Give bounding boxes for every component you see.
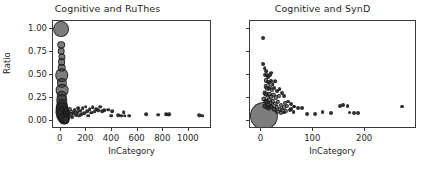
y-tick-mark bbox=[49, 28, 52, 29]
data-point bbox=[200, 114, 204, 118]
data-point bbox=[145, 112, 149, 116]
x-tick-label: 600 bbox=[129, 133, 145, 143]
data-point bbox=[356, 111, 360, 115]
x-tick-label: 800 bbox=[154, 133, 170, 143]
data-point bbox=[282, 94, 286, 98]
data-point bbox=[261, 36, 265, 40]
y-tick-label: 0.75 bbox=[28, 46, 47, 56]
data-point bbox=[123, 114, 127, 118]
x-tick-label: 400 bbox=[103, 133, 119, 143]
y-tick-mark bbox=[246, 74, 249, 75]
data-point bbox=[305, 112, 309, 116]
data-point bbox=[401, 105, 405, 109]
data-point bbox=[86, 114, 90, 118]
x-tick-mark bbox=[111, 128, 112, 131]
data-point bbox=[292, 105, 296, 109]
x-tick-label: 100 bbox=[304, 133, 320, 143]
panel-cognitive-synd: Cognitive and SynD InCategory 0100200 bbox=[215, 0, 430, 173]
x-tick-mark bbox=[137, 128, 138, 131]
y-tick-mark bbox=[49, 97, 52, 98]
y-tick-mark bbox=[246, 97, 249, 98]
y-tick-label: 0.25 bbox=[28, 92, 47, 102]
y-tick-mark bbox=[246, 28, 249, 29]
data-point bbox=[106, 108, 110, 112]
data-point bbox=[329, 111, 333, 115]
data-point bbox=[157, 113, 161, 117]
y-tick-mark bbox=[246, 120, 249, 121]
y-tick-mark bbox=[49, 120, 52, 121]
plot-area-left bbox=[52, 20, 211, 128]
x-tick-label: 1000 bbox=[177, 133, 199, 143]
data-point bbox=[292, 110, 296, 114]
data-point bbox=[98, 105, 102, 109]
x-tick-label: 200 bbox=[77, 133, 93, 143]
panel-right-title: Cognitive and SynD bbox=[215, 3, 430, 14]
x-tick-mark bbox=[260, 128, 261, 131]
data-point bbox=[269, 71, 273, 75]
y-tick-label: 0.50 bbox=[28, 69, 47, 79]
x-tick-label: 0 bbox=[57, 133, 62, 143]
plot-area-right bbox=[249, 20, 416, 128]
x-tick-mark bbox=[60, 128, 61, 131]
x-tick-mark bbox=[162, 128, 163, 131]
y-tick-mark bbox=[49, 74, 52, 75]
x-tick-mark bbox=[85, 128, 86, 131]
x-tick-label: 0 bbox=[258, 133, 263, 143]
x-tick-label: 200 bbox=[356, 133, 372, 143]
y-tick-label: 0.00 bbox=[28, 115, 47, 125]
x-tick-mark bbox=[312, 128, 313, 131]
y-tick-mark bbox=[49, 51, 52, 52]
data-point bbox=[273, 80, 277, 84]
x-tick-mark bbox=[188, 128, 189, 131]
data-point bbox=[127, 114, 131, 118]
panel-cognitive-ruthes: Cognitive and RuThes Ratio InCategory 0.… bbox=[0, 0, 215, 173]
y-tick-mark bbox=[246, 51, 249, 52]
x-axis-label-left: InCategory bbox=[52, 146, 211, 156]
data-point bbox=[54, 21, 70, 37]
data-point bbox=[168, 112, 172, 116]
data-point bbox=[346, 104, 350, 108]
y-tick-label: 1.00 bbox=[28, 23, 47, 33]
x-axis-label-right: InCategory bbox=[249, 146, 416, 156]
data-point bbox=[300, 106, 304, 110]
data-point bbox=[109, 114, 113, 118]
x-tick-mark bbox=[364, 128, 365, 131]
data-point bbox=[282, 111, 286, 115]
figure-scatter-panels: Cognitive and RuThes Ratio InCategory 0.… bbox=[0, 0, 430, 173]
data-point bbox=[321, 110, 325, 114]
y-axis-label: Ratio bbox=[2, 52, 12, 74]
data-point bbox=[313, 112, 317, 116]
data-point bbox=[111, 109, 115, 113]
panel-left-title: Cognitive and RuThes bbox=[0, 3, 215, 14]
